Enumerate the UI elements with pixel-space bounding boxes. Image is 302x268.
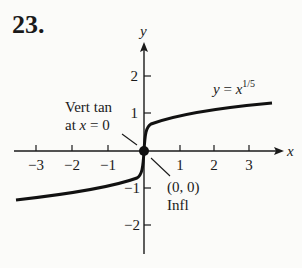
x-axis-label: x [286,143,294,159]
svg-text:3: 3 [245,157,253,173]
svg-text:2: 2 [210,157,218,173]
svg-text:−2: −2 [124,217,140,233]
origin-leader [151,158,170,176]
vert-tan-annotation-line1: Vert tan [65,99,113,115]
function-label: y = x1/5 [211,78,255,97]
svg-text:−2: −2 [64,157,80,173]
svg-text:2: 2 [131,68,139,84]
vert-tan-leader [122,134,137,145]
svg-text:1: 1 [131,105,139,121]
vert-tan-annotation-line2: at x = 0 [65,117,110,133]
origin-annotation-coords: (0, 0) [167,179,200,196]
origin-point [139,146,149,156]
origin-annotation-infl: Infl [167,197,189,213]
y-axis-label: y [138,23,147,39]
svg-text:1: 1 [176,157,184,173]
svg-text:−1: −1 [100,157,116,173]
function-graph: −3 −2 −1 1 2 3 2 1 −1 −2 y x y = x1/5 Ve… [0,0,302,268]
svg-text:−3: −3 [28,157,44,173]
